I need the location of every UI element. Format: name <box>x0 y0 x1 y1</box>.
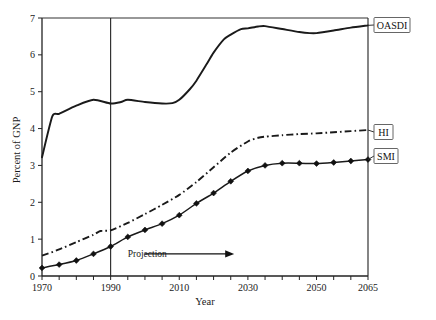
smi-data-point-1985 <box>91 251 97 257</box>
percent-of-gnp-line-chart: 01234567 197019902010203020502065 Projec… <box>0 0 436 320</box>
smi-data-point-2035 <box>262 163 268 169</box>
legend-label-oasdi: OASDI <box>377 20 408 31</box>
smi-data-point-2040 <box>279 160 285 166</box>
projection-arrow-head <box>225 250 234 257</box>
x-tick-label-2030: 2030 <box>238 282 258 293</box>
series-line-hi <box>42 130 368 256</box>
y-tick-label-0: 0 <box>30 271 35 282</box>
y-tick-label-6: 6 <box>30 49 35 60</box>
smi-data-point-2050 <box>314 161 320 167</box>
y-axis-title: Percent of GNP <box>11 117 22 184</box>
series-line-oasdi <box>42 25 368 157</box>
y-tick-label-7: 7 <box>30 13 35 24</box>
smi-data-point-2030 <box>245 168 251 174</box>
legend-leader-hi <box>368 130 374 132</box>
series-layer <box>42 25 368 268</box>
chart-container: 01234567 197019902010203020502065 Projec… <box>0 0 436 320</box>
smi-data-point-2005 <box>159 221 165 227</box>
legend-label-hi: HI <box>378 127 389 138</box>
smi-data-point-1970 <box>39 265 45 271</box>
x-axis-ticks: 197019902010203020502065 <box>32 276 378 293</box>
smi-data-point-1995 <box>125 234 131 240</box>
x-tick-label-2050: 2050 <box>307 282 327 293</box>
y-tick-label-5: 5 <box>30 86 35 97</box>
projection-annotation: Projection <box>128 249 234 259</box>
x-tick-label-1990: 1990 <box>101 282 121 293</box>
y-tick-label-3: 3 <box>30 160 35 171</box>
y-tick-label-1: 1 <box>30 234 35 245</box>
legend: OASDIHISMI <box>368 18 410 164</box>
smi-data-point-1980 <box>73 258 79 264</box>
smi-data-point-2060 <box>348 158 354 164</box>
x-axis-title: Year <box>195 296 215 307</box>
series-line-smi <box>42 160 368 268</box>
y-tick-label-2: 2 <box>30 197 35 208</box>
smi-data-point-1990 <box>108 244 114 250</box>
y-axis-ticks: 01234567 <box>30 13 42 282</box>
legend-label-smi: SMI <box>377 151 395 162</box>
x-tick-label-2010: 2010 <box>169 282 189 293</box>
smi-data-point-2055 <box>331 160 337 166</box>
y-tick-label-4: 4 <box>30 123 35 134</box>
smi-data-point-2045 <box>296 160 302 166</box>
smi-data-point-1975 <box>56 262 62 268</box>
x-tick-label-2065: 2065 <box>358 282 378 293</box>
smi-data-point-2000 <box>142 227 148 233</box>
x-tick-label-1970: 1970 <box>32 282 52 293</box>
plot-frame <box>42 18 368 276</box>
